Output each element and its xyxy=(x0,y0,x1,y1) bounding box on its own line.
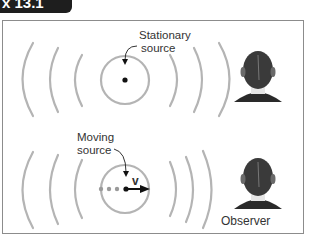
label-line: source xyxy=(139,42,191,55)
label-line: Moving xyxy=(77,131,114,144)
label-line: source xyxy=(77,144,114,157)
velocity-label: v xyxy=(132,175,139,188)
source-trail-dots xyxy=(99,187,119,191)
observer-label: Observer xyxy=(221,215,270,228)
stationary-source-dot xyxy=(122,77,127,82)
moving-source-label: Moving source xyxy=(77,131,114,157)
stationary-source-label: Stationary source xyxy=(139,29,191,55)
label-line: Stationary xyxy=(139,29,191,42)
observer-head-top xyxy=(234,51,282,102)
observer-head-bottom xyxy=(234,158,282,209)
moving-source-pointer xyxy=(114,149,129,177)
